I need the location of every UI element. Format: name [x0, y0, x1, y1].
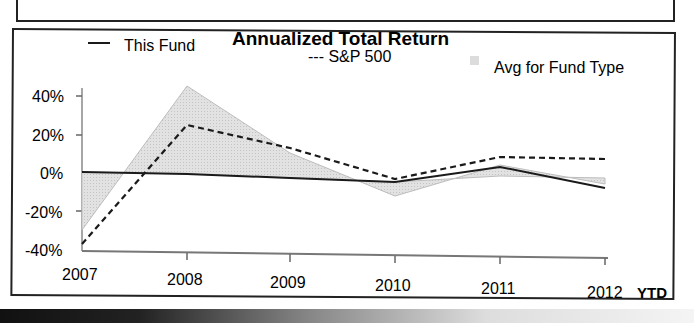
- x-tick-2012: 2012: [587, 284, 623, 301]
- y-tick-0: 0%: [40, 165, 63, 182]
- legend-sp500: --- S&P 500: [308, 48, 391, 65]
- x-axis: 2007 2008 2009 2010 2011 2012 YTD: [62, 251, 667, 301]
- annualized-return-chart: Annualized Total Return This Fund --- S&…: [0, 0, 694, 323]
- y-tick-20: 20%: [32, 127, 64, 144]
- y-tick-40: 40%: [32, 88, 64, 105]
- x-tick-ytd: YTD: [637, 284, 667, 301]
- y-tick-neg20: -20%: [25, 204, 62, 221]
- x-tick-2010: 2010: [375, 277, 411, 294]
- x-tick-2011: 2011: [481, 280, 516, 297]
- avg-fund-type-legend-icon: [470, 56, 479, 65]
- y-tick-neg40: -40%: [25, 242, 62, 259]
- x-tick-2007: 2007: [62, 266, 98, 283]
- avg-fund-type-area: [82, 86, 605, 230]
- legend-this-fund: This Fund: [124, 37, 195, 54]
- bottom-edge-shadow: [0, 309, 694, 323]
- chart-title: Annualized Total Return: [232, 28, 449, 49]
- y-axis: 40% 20% 0% -20% -40%: [25, 88, 82, 259]
- legend-avg-fund-type: Avg for Fund Type: [494, 59, 624, 76]
- x-tick-2008: 2008: [167, 271, 203, 288]
- x-tick-2009: 2009: [270, 274, 306, 291]
